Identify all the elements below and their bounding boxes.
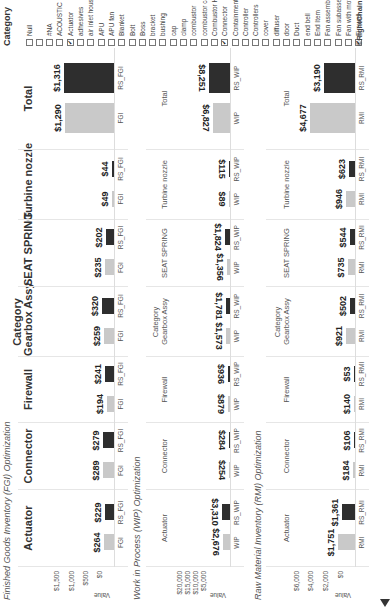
wip-value-axis-title: Value xyxy=(210,592,226,599)
legend-item[interactable]: Bolt xyxy=(127,25,137,46)
legend-item[interactable]: ✔Connector xyxy=(220,6,230,46)
fgi-base-bar[interactable] xyxy=(105,260,114,276)
checkbox-icon[interactable] xyxy=(232,39,239,46)
wip-rs-bar[interactable] xyxy=(222,505,230,521)
checkbox-icon[interactable] xyxy=(242,39,249,46)
legend-item[interactable]: air inlet housing xyxy=(86,0,96,46)
legend-item[interactable]: adhesives xyxy=(76,7,86,46)
checkbox-icon[interactable] xyxy=(304,39,311,46)
legend-item-label: adhesives xyxy=(77,7,84,36)
fgi-base-bar[interactable] xyxy=(107,396,114,412)
checkbox-icon[interactable] xyxy=(262,39,269,46)
legend-item[interactable]: combustor case xyxy=(199,0,209,46)
rmi-base-bar[interactable] xyxy=(348,260,355,276)
legend-item[interactable]: bracket xyxy=(148,15,158,46)
checkbox-icon[interactable] xyxy=(324,39,331,46)
legend-item[interactable]: Containment xyxy=(230,0,240,46)
fgi-base-bar[interactable] xyxy=(103,463,114,479)
fgi-rs-bar[interactable] xyxy=(105,505,114,521)
legend-item[interactable]: Controller xyxy=(240,8,250,46)
legend-item-label: cover xyxy=(262,20,269,36)
legend-item[interactable]: APU xyxy=(96,23,106,46)
rmi-rs-bar[interactable] xyxy=(324,63,355,93)
checkbox-icon[interactable] xyxy=(139,39,146,46)
rmi-rs-bar[interactable] xyxy=(342,505,355,521)
fgi-base-bar[interactable] xyxy=(65,103,114,133)
legend-item[interactable]: bushing xyxy=(158,13,168,46)
checkbox-icon[interactable] xyxy=(36,39,43,46)
checkbox-checked-icon[interactable]: ✔ xyxy=(221,39,228,46)
checkbox-icon[interactable] xyxy=(201,39,208,46)
legend-item[interactable]: door xyxy=(282,23,292,46)
checkbox-icon[interactable] xyxy=(149,39,156,46)
checkbox-icon[interactable] xyxy=(180,39,187,46)
legend-item[interactable]: Null xyxy=(24,25,34,46)
legend-item[interactable]: #NA xyxy=(45,23,55,46)
rmi-x-label: RS_RMI xyxy=(358,151,365,187)
fgi-rs-bar[interactable] xyxy=(105,366,114,382)
fgi-rs-bar[interactable] xyxy=(102,298,114,314)
legend-item[interactable]: clamp xyxy=(179,19,189,46)
wip-rs-bar[interactable] xyxy=(209,63,230,93)
wip-base-bar[interactable] xyxy=(213,103,230,133)
legend-item[interactable]: combustor xyxy=(189,6,199,46)
fgi-x-label: RS_FGI xyxy=(117,220,124,256)
rmi-base-bar[interactable] xyxy=(310,103,355,133)
checkbox-icon[interactable] xyxy=(345,39,352,46)
legend-item[interactable]: Combustor Housing xyxy=(209,0,219,46)
checkbox-icon[interactable] xyxy=(159,39,166,46)
legend-item[interactable]: APU fan xyxy=(106,12,116,46)
wip-base-bar[interactable] xyxy=(223,535,230,551)
rmi-y-tick: $4,000 xyxy=(307,571,314,601)
legend-item[interactable]: ACOUSTIC PLATE xyxy=(55,0,65,46)
checkbox-icon[interactable] xyxy=(252,39,259,46)
legend-item[interactable]: Blanket xyxy=(117,14,127,46)
legend-item[interactable]: ✔Actuator xyxy=(65,12,75,46)
legend-item[interactable]: Boss xyxy=(137,22,147,46)
fgi-column: Turbine nozzle$49FGI$44RS_FGI xyxy=(18,150,128,220)
fgi-base-bar[interactable] xyxy=(104,328,114,344)
collapse-triangle-icon[interactable] xyxy=(380,599,390,607)
checkbox-icon[interactable] xyxy=(190,39,197,46)
checkbox-checked-icon[interactable]: ✔ xyxy=(67,39,74,46)
fgi-rs-bar[interactable] xyxy=(64,63,114,93)
checkbox-icon[interactable] xyxy=(77,39,84,46)
legend-item[interactable]: end bell xyxy=(302,13,312,46)
legend-item[interactable]: diffuser xyxy=(271,15,281,46)
rmi-base-bar[interactable] xyxy=(346,191,355,207)
legend-item[interactable] xyxy=(34,36,44,46)
checkbox-icon[interactable] xyxy=(26,39,33,46)
checkbox-icon[interactable] xyxy=(293,39,300,46)
checkbox-icon[interactable] xyxy=(283,39,290,46)
checkbox-icon[interactable] xyxy=(314,39,321,46)
wip-x-label: RS_WIP xyxy=(233,151,240,187)
fgi-rs-bar[interactable] xyxy=(106,230,114,246)
rmi-base-bar[interactable] xyxy=(346,328,355,344)
legend-item[interactable]: Fan with motor drive xyxy=(343,0,353,46)
checkbox-icon[interactable] xyxy=(170,39,177,46)
checkbox-icon[interactable] xyxy=(211,39,218,46)
legend-item[interactable]: End Item xyxy=(312,10,322,46)
checkbox-icon[interactable] xyxy=(335,39,342,46)
checkbox-icon[interactable] xyxy=(118,39,125,46)
checkbox-icon[interactable] xyxy=(46,39,53,46)
fgi-rs-bar[interactable] xyxy=(103,433,114,449)
checkbox-icon[interactable] xyxy=(87,39,94,46)
checkbox-icon[interactable] xyxy=(129,39,136,46)
checkbox-icon[interactable] xyxy=(108,39,115,46)
legend-item[interactable]: cover xyxy=(261,20,271,46)
legend-item[interactable]: Duct xyxy=(292,23,302,46)
fgi-rs-value-label: $1,316 xyxy=(52,51,62,105)
rmi-base-bar[interactable] xyxy=(338,535,355,551)
checkbox-icon[interactable] xyxy=(273,39,280,46)
legend-item-label: APU xyxy=(98,23,105,36)
checkbox-icon[interactable] xyxy=(56,39,63,46)
legend-item[interactable]: Fan assembly with... xyxy=(323,0,333,46)
rmi-column: Connector$184RMI$106RS_RMI xyxy=(266,423,369,490)
legend-item[interactable]: Fan subassembly... xyxy=(333,0,343,46)
legend-item-label: Blanket xyxy=(118,14,125,36)
legend-item[interactable]: cap xyxy=(168,26,178,46)
legend-item[interactable]: Controllers xyxy=(251,5,261,46)
checkbox-icon[interactable] xyxy=(98,39,105,46)
fgi-base-bar[interactable] xyxy=(104,535,114,551)
